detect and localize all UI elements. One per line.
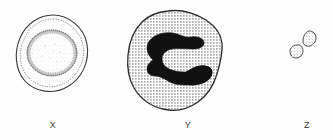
specimen-y-cell: [128, 11, 223, 111]
specimen-label-y: Y: [178, 120, 198, 130]
specimen-label-z: Z: [297, 120, 317, 130]
specimen-x-cell: [16, 15, 87, 92]
figure-canvas: X Y Z: [0, 0, 333, 140]
cell-diagram: [0, 0, 333, 140]
specimen-z-fragment-1: [303, 31, 316, 46]
specimen-x-nucleus-inner-edge: [30, 33, 74, 73]
specimen-z-fragment-2: [290, 45, 303, 58]
specimen-y-cytoplasm: [128, 11, 223, 111]
specimen-label-x: X: [43, 120, 63, 130]
specimen-z-fragments: [290, 31, 316, 58]
